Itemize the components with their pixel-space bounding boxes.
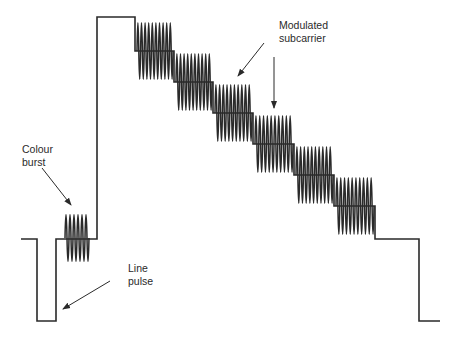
colour-burst-label-line2: burst (22, 156, 53, 169)
subcarrier-label-line2: subcarrier (279, 32, 328, 45)
colour-burst-arrow (42, 168, 71, 205)
modulated-subcarrier-label: Modulated subcarrier (279, 19, 328, 45)
colour-burst-label-line1: Colour (22, 143, 53, 156)
subcarrier-arrow-diagonal (238, 43, 264, 76)
colour-burst-label: Colour burst (22, 143, 53, 169)
annotation-arrows (42, 43, 274, 309)
line-pulse-label-line2: pulse (128, 275, 153, 288)
line-pulse-label-line1: Line (128, 262, 153, 275)
subcarrier-oscillation (65, 23, 374, 262)
line-pulse-arrow (63, 281, 110, 309)
waveform-trace (21, 17, 440, 321)
subcarrier-label-line1: Modulated (279, 19, 328, 32)
line-pulse-label: Line pulse (128, 262, 153, 288)
waveform-diagram (0, 0, 456, 342)
